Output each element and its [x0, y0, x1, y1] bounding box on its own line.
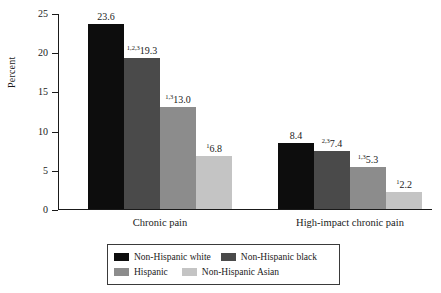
legend-swatch — [114, 268, 129, 276]
x-axis-group-label: Chronic pain — [133, 217, 188, 228]
bar-value-number: 7.4 — [330, 138, 343, 149]
bar-value-label: 8.4 — [290, 130, 303, 141]
legend-row: HispanicNon-Hispanic Asian — [114, 264, 333, 279]
chart-figure: 2520151050 23.61,2,319.31,313.016.88.42,… — [0, 0, 441, 293]
bar-value-number: 2.2 — [399, 179, 412, 190]
bar: 23.6 — [88, 24, 124, 209]
legend-swatch — [114, 253, 129, 261]
bar-value-label: 1,35.3 — [358, 154, 379, 165]
x-axis-line — [58, 209, 432, 210]
bar: 12.2 — [386, 192, 422, 209]
y-axis-tick: 0 — [52, 210, 58, 211]
y-axis-line — [58, 14, 59, 210]
legend-entry: Non-Hispanic Asian — [182, 266, 279, 278]
bar-significance-marker: 1,3 — [165, 93, 173, 100]
bar: 1,313.0 — [160, 107, 196, 209]
bar-value-number: 8.4 — [290, 130, 303, 141]
bar-significance-marker: 1,3 — [358, 153, 366, 160]
bar: 1,2,319.3 — [124, 58, 160, 209]
bar-significance-marker: 2,3 — [322, 137, 330, 144]
bar-value-label: 16.8 — [206, 143, 222, 154]
bar-value-label: 1,313.0 — [165, 94, 191, 105]
y-axis-title: Percent — [6, 57, 17, 88]
legend-label: Non-Hispanic black — [241, 251, 317, 263]
bar: 2,37.4 — [314, 151, 350, 209]
bar-value-label: 23.6 — [97, 11, 115, 22]
y-axis-tick: 20 — [52, 53, 58, 54]
y-axis-tick: 10 — [52, 132, 58, 133]
y-axis-tick-label: 20 — [22, 46, 48, 59]
y-axis-tick: 5 — [52, 171, 58, 172]
legend-entry: Non-Hispanic black — [221, 251, 317, 263]
legend-row: Non-Hispanic whiteNon-Hispanic black — [114, 249, 333, 264]
y-axis-tick-label: 15 — [22, 85, 48, 98]
chart-legend: Non-Hispanic whiteNon-Hispanic blackHisp… — [107, 244, 340, 285]
y-axis-tick: 15 — [52, 92, 58, 93]
bar-value-number: 6.8 — [209, 143, 222, 154]
bar-significance-marker: 1,2,3 — [127, 43, 140, 50]
bar-value-label: 1,2,319.3 — [127, 45, 158, 56]
x-axis-group-label: High-impact chronic pain — [296, 217, 404, 228]
legend-label: Hispanic — [134, 266, 168, 278]
legend-entry: Hispanic — [114, 266, 168, 278]
bar-value-number: 5.3 — [366, 154, 379, 165]
y-axis-tick: 25 — [52, 14, 58, 15]
legend-swatch — [182, 268, 197, 276]
bar-value-label: 2,37.4 — [322, 138, 343, 149]
y-axis-tick-label: 0 — [22, 203, 48, 216]
plot-area: 2520151050 23.61,2,319.31,313.016.88.42,… — [58, 14, 432, 210]
bar-value-label: 12.2 — [396, 179, 412, 190]
bar-value-number: 19.3 — [140, 45, 158, 56]
y-axis-tick-label: 5 — [22, 164, 48, 177]
legend-swatch — [221, 253, 236, 261]
bar: 1,35.3 — [350, 167, 386, 209]
legend-entry: Non-Hispanic white — [114, 251, 211, 263]
bar: 16.8 — [196, 156, 232, 209]
y-axis-tick-label: 10 — [22, 125, 48, 138]
bar-value-number: 23.6 — [97, 11, 115, 22]
bar-value-number: 13.0 — [173, 94, 191, 105]
y-axis-tick-label: 25 — [22, 7, 48, 20]
legend-label: Non-Hispanic white — [134, 251, 211, 263]
legend-label: Non-Hispanic Asian — [202, 266, 279, 278]
bar: 8.4 — [278, 143, 314, 209]
